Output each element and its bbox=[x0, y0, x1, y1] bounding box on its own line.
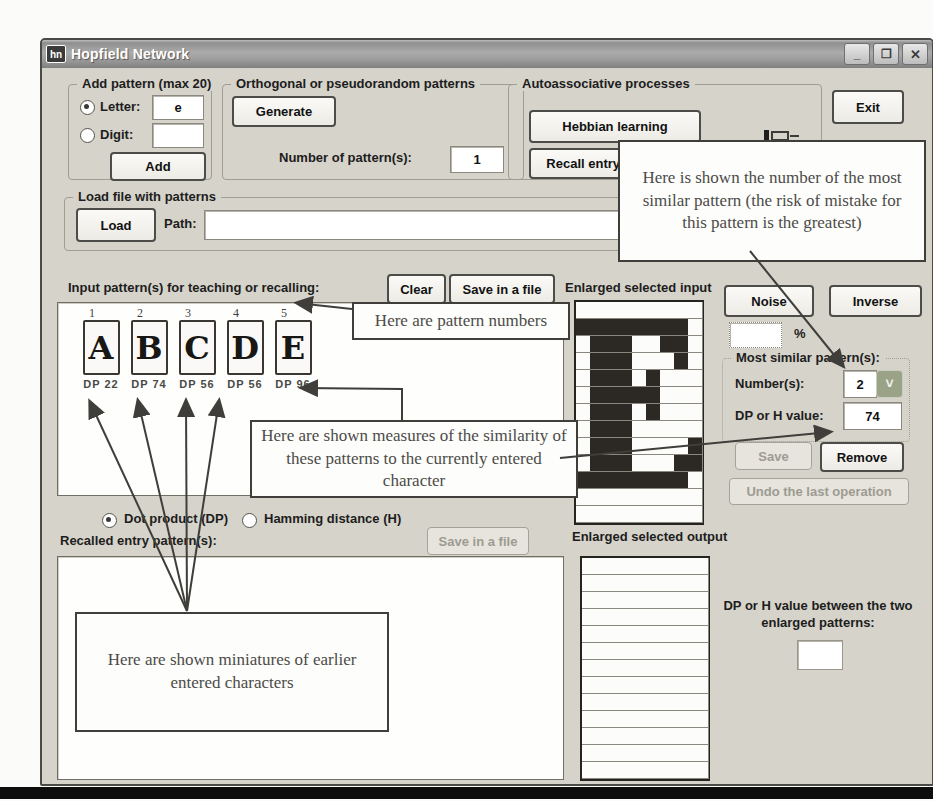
grid-cell bbox=[610, 592, 625, 609]
grid-cell bbox=[638, 609, 653, 626]
dp-or-h-value-field: 74 bbox=[843, 402, 902, 430]
grid-cell bbox=[624, 677, 639, 694]
clear-button[interactable]: Clear bbox=[387, 274, 446, 304]
grid-cell bbox=[646, 438, 661, 455]
inverse-button[interactable]: Inverse bbox=[829, 285, 922, 317]
figure-page: hn Hopfield Network _ ❐ ✕ Add pattern (m… bbox=[0, 0, 933, 801]
pattern-dp-value: DP 56 bbox=[227, 378, 262, 390]
grid-cell bbox=[604, 438, 619, 455]
grid-cell bbox=[604, 336, 619, 353]
annotation-most-similar-number: Here is shown the number of the most sim… bbox=[618, 140, 926, 262]
grid-cell bbox=[632, 319, 647, 336]
save-in-file-input-button[interactable]: Save in a file bbox=[449, 274, 555, 304]
grid-cell bbox=[652, 643, 667, 660]
grid-cell bbox=[638, 643, 653, 660]
grid-cell bbox=[666, 592, 681, 609]
noise-button[interactable]: Noise bbox=[724, 285, 814, 317]
grid-cell bbox=[674, 353, 689, 370]
grid-cell bbox=[610, 762, 625, 779]
enlarged-input-grid[interactable] bbox=[574, 300, 704, 525]
letter-input[interactable]: e bbox=[152, 95, 204, 120]
number-of-patterns-input[interactable]: 1 bbox=[450, 146, 504, 173]
minimize-button[interactable]: _ bbox=[844, 43, 870, 65]
grid-cell bbox=[576, 438, 591, 455]
exit-button[interactable]: Exit bbox=[832, 90, 904, 124]
input-patterns-label: Input pattern(s) for teaching or recalli… bbox=[68, 280, 319, 295]
grid-cell bbox=[638, 558, 653, 575]
grid-cell bbox=[596, 694, 611, 711]
grid-cell bbox=[652, 626, 667, 643]
pattern-bitmap[interactable]: C bbox=[179, 320, 216, 375]
save-pattern-button[interactable]: Save bbox=[735, 442, 812, 470]
grid-cell bbox=[576, 370, 591, 387]
grid-cell bbox=[590, 353, 605, 370]
dp-between-value-field bbox=[797, 640, 843, 670]
app-icon: hn bbox=[46, 45, 66, 63]
grid-cell bbox=[652, 745, 667, 762]
grid-cell bbox=[680, 643, 695, 660]
pattern-bitmap[interactable]: B bbox=[131, 320, 168, 375]
grid-cell bbox=[674, 387, 689, 404]
save-in-file-output-button[interactable]: Save in a file bbox=[427, 527, 529, 555]
hebbian-learning-button[interactable]: Hebbian learning bbox=[529, 110, 701, 143]
grid-cell bbox=[674, 421, 689, 438]
grid-cell bbox=[618, 370, 633, 387]
remove-button[interactable]: Remove bbox=[820, 442, 904, 472]
pattern-thumbnail[interactable]: 4DDP 56 bbox=[225, 306, 265, 390]
grid-cell bbox=[596, 609, 611, 626]
most-similar-number-value[interactable]: 2 bbox=[843, 370, 877, 398]
grid-cell bbox=[632, 404, 647, 421]
grid-cell bbox=[632, 506, 647, 523]
grid-cell bbox=[652, 728, 667, 745]
grid-cell bbox=[674, 472, 689, 489]
load-button[interactable]: Load bbox=[76, 208, 156, 242]
noise-percent-input[interactable] bbox=[729, 322, 782, 348]
grid-cell bbox=[694, 677, 709, 694]
dot-product-radio[interactable] bbox=[102, 513, 117, 528]
generate-button[interactable]: Generate bbox=[232, 96, 336, 127]
grid-cell bbox=[618, 353, 633, 370]
letter-radio[interactable] bbox=[80, 100, 95, 115]
grid-cell bbox=[680, 728, 695, 745]
grid-cell bbox=[590, 370, 605, 387]
digit-radio[interactable] bbox=[80, 128, 95, 143]
grid-cell bbox=[624, 694, 639, 711]
grid-cell bbox=[596, 728, 611, 745]
number-dropdown-button[interactable]: ˅ bbox=[876, 370, 903, 398]
pattern-thumbnail[interactable]: 3CDP 56 bbox=[177, 306, 217, 390]
pattern-bitmap[interactable]: D bbox=[227, 320, 264, 375]
path-label: Path: bbox=[164, 216, 197, 231]
grid-cell bbox=[618, 421, 633, 438]
undo-button[interactable]: Undo the last operation bbox=[729, 478, 909, 505]
grid-cell bbox=[646, 421, 661, 438]
grid-cell bbox=[618, 438, 633, 455]
grid-cell bbox=[604, 472, 619, 489]
maximize-button[interactable]: ❐ bbox=[873, 43, 899, 65]
close-button[interactable]: ✕ bbox=[902, 43, 928, 65]
grid-cell bbox=[674, 302, 689, 319]
pattern-thumbnail[interactable]: 2BDP 74 bbox=[129, 306, 169, 390]
grid-cell bbox=[632, 472, 647, 489]
grid-cell bbox=[652, 677, 667, 694]
pattern-number: 5 bbox=[281, 306, 287, 320]
digit-input[interactable] bbox=[152, 123, 204, 148]
add-button[interactable]: Add bbox=[110, 152, 206, 181]
pattern-thumbnail[interactable]: 5EDP 96 bbox=[273, 306, 313, 390]
annotation-similarity-measures: Here are shown measures of the similarit… bbox=[250, 420, 578, 498]
enlarged-output-grid[interactable] bbox=[580, 556, 710, 781]
hamming-distance-radio[interactable] bbox=[242, 513, 257, 528]
dp-or-h-value-label: DP or H value: bbox=[735, 408, 824, 423]
grid-cell bbox=[666, 745, 681, 762]
title-bar[interactable]: hn Hopfield Network _ ❐ ✕ bbox=[42, 40, 932, 68]
pattern-bitmap[interactable]: A bbox=[83, 320, 120, 375]
grid-cell bbox=[610, 694, 625, 711]
grid-cell bbox=[596, 643, 611, 660]
add-pattern-group-label: Add pattern (max 20) bbox=[77, 76, 216, 91]
grid-cell bbox=[576, 353, 591, 370]
grid-cell bbox=[688, 370, 703, 387]
pattern-bitmap[interactable]: E bbox=[275, 320, 312, 375]
grid-cell bbox=[694, 660, 709, 677]
grid-cell bbox=[590, 336, 605, 353]
pattern-thumbnail[interactable]: 1ADP 22 bbox=[81, 306, 121, 390]
grid-cell bbox=[688, 302, 703, 319]
